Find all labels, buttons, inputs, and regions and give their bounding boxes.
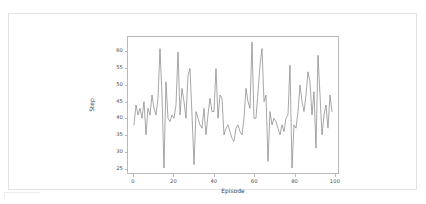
y-tick-label: 60 xyxy=(116,49,123,54)
x-tick-mark xyxy=(295,174,296,177)
y-axis-title: Step xyxy=(89,98,95,112)
x-tick-label: 40 xyxy=(210,179,217,184)
y-tick-label: 55 xyxy=(116,65,123,70)
document-panel: Step 2530354045505560 020406080100 Episo… xyxy=(8,13,417,190)
line-series-svg xyxy=(128,37,338,173)
x-tick-mark xyxy=(133,174,134,177)
x-tick-mark xyxy=(335,174,336,177)
plot-area xyxy=(127,36,339,174)
x-tick-mark xyxy=(214,174,215,177)
y-tick-label: 50 xyxy=(116,82,123,87)
x-tick-mark xyxy=(254,174,255,177)
x-tick-label: 0 xyxy=(131,179,134,184)
y-tick-label: 30 xyxy=(116,150,123,155)
x-tick-label: 80 xyxy=(291,179,298,184)
chart-figure: Step 2530354045505560 020406080100 Episo… xyxy=(99,32,349,197)
panel-edge-artifact xyxy=(4,192,40,199)
series-line-step xyxy=(134,42,332,168)
x-tick-label: 20 xyxy=(170,179,177,184)
y-tick-label: 35 xyxy=(116,133,123,138)
y-tick-label: 40 xyxy=(116,116,123,121)
x-tick-mark xyxy=(173,174,174,177)
x-tick-label: 100 xyxy=(330,179,340,184)
y-tick-label: 25 xyxy=(116,166,123,171)
y-tick-label: 45 xyxy=(116,99,123,104)
x-axis-title: Episode xyxy=(127,188,339,194)
x-tick-label: 60 xyxy=(251,179,258,184)
screenshot-canvas: Step 2530354045505560 020406080100 Episo… xyxy=(0,0,426,204)
